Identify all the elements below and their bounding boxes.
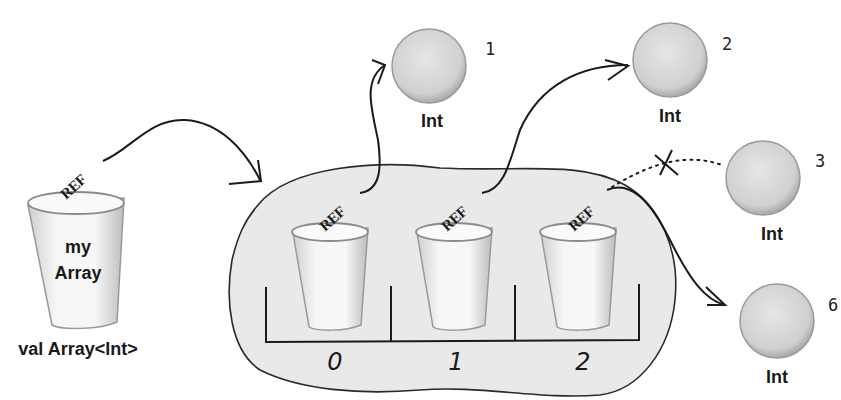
int-object-3: 3 Int (726, 141, 825, 244)
slot-index-0: 0 (327, 348, 342, 376)
int-value: 6 (828, 295, 838, 315)
variable-name-line2: Array (54, 263, 101, 283)
int-type-label: Int (421, 111, 443, 131)
int-object-6: 6 Int (740, 284, 838, 387)
int-type-label: Int (659, 106, 681, 126)
slot1-arrowhead (605, 60, 628, 80)
variable-cup: my Array REF (28, 171, 124, 328)
variable-type-label: val Array<Int> (18, 339, 137, 359)
int-type-label: Int (761, 224, 783, 244)
cross-out-icon (655, 150, 678, 175)
int-type-label: Int (766, 367, 788, 387)
variable-name-line1: my (65, 237, 91, 257)
int-object-1: 1 Int (392, 29, 495, 131)
int-value: 2 (722, 34, 732, 54)
slot2-old-reference-dotted (612, 160, 722, 187)
int-value: 3 (815, 151, 825, 171)
int-value: 1 (485, 39, 495, 59)
slot-index-1: 1 (448, 348, 463, 376)
array-reference-diagram: my Array REF val Array<Int> REF REF REF … (0, 0, 841, 400)
variable-to-array-arrow (103, 120, 261, 184)
slot-index-2: 2 (575, 348, 590, 376)
int-object-2: 2 Int (633, 23, 732, 126)
